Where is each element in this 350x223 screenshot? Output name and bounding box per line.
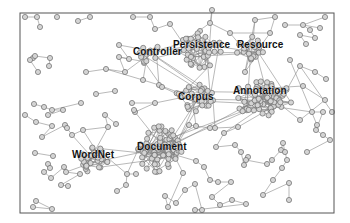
graph-node — [49, 107, 54, 112]
graph-node — [171, 133, 176, 138]
graph-node — [209, 194, 214, 199]
graph-edge — [195, 184, 202, 210]
graph-node — [323, 76, 328, 81]
graph-node — [236, 95, 241, 100]
graph-node — [49, 206, 54, 211]
graph-node — [309, 109, 314, 114]
graph-node — [312, 35, 317, 40]
graph-node — [96, 165, 101, 170]
graph-node — [314, 122, 319, 127]
graph-node — [93, 91, 98, 96]
graph-node — [280, 140, 285, 145]
graph-node — [242, 99, 247, 104]
graph-node — [32, 53, 37, 58]
graph-node — [122, 69, 127, 74]
graph-node — [48, 175, 53, 180]
graph-node — [327, 137, 332, 142]
graph-edge — [307, 140, 330, 152]
graph-node — [49, 123, 54, 128]
graph-node — [197, 65, 202, 70]
graph-node — [116, 54, 121, 59]
graph-edge — [210, 23, 230, 33]
graph-node — [50, 153, 55, 158]
graph-node — [35, 69, 40, 74]
graph-edge — [61, 174, 80, 185]
graph-node — [272, 14, 277, 19]
graph-node — [193, 109, 198, 114]
label-wordnet: WordNet — [72, 150, 114, 160]
graph-node — [133, 171, 138, 176]
graph-node — [130, 14, 135, 19]
graph-node — [303, 41, 308, 46]
graph-node — [162, 193, 167, 198]
graph-node — [282, 22, 287, 27]
graph-node — [41, 169, 46, 174]
graph-node — [159, 84, 164, 89]
graph-node — [146, 130, 151, 135]
graph-node — [113, 121, 118, 126]
label-corpus: Corpus — [178, 92, 214, 102]
graph-node — [185, 104, 190, 109]
graph-edge — [215, 127, 238, 128]
graph-node — [304, 149, 309, 154]
graph-node — [167, 21, 172, 26]
graph-edge — [135, 103, 155, 112]
graph-node — [320, 132, 325, 137]
graph-node — [206, 50, 211, 55]
graph-node — [182, 187, 187, 192]
graph-edge — [212, 182, 231, 197]
graph-node — [188, 61, 193, 66]
graph-node — [33, 119, 38, 124]
graph-node — [165, 204, 170, 209]
graph-edge — [303, 17, 325, 25]
graph-node — [229, 197, 234, 202]
graph-node — [192, 207, 197, 212]
graph-node — [54, 14, 59, 19]
graph-node — [278, 100, 283, 105]
graph-node — [158, 135, 163, 140]
network-graph — [0, 0, 350, 223]
label-persistence: Persistence — [173, 40, 230, 50]
graph-node — [212, 125, 217, 130]
graph-node — [37, 24, 42, 29]
graph-node — [165, 162, 170, 167]
graph-node — [209, 7, 214, 12]
graph-node — [266, 113, 271, 118]
graph-node — [60, 107, 65, 112]
graph-node — [129, 100, 134, 105]
graph-node — [80, 127, 85, 132]
graph-node — [322, 97, 327, 102]
graph-node — [30, 204, 35, 209]
graph-node — [63, 169, 68, 174]
graph-edge — [303, 86, 325, 100]
graph-node — [163, 128, 168, 133]
graph-node — [249, 56, 254, 61]
label-document: Document — [137, 142, 187, 152]
graph-node — [112, 88, 117, 93]
graph-node — [103, 66, 108, 71]
graph-node — [77, 171, 82, 176]
graph-node — [64, 125, 69, 130]
graph-node — [180, 170, 185, 175]
graph-node — [297, 32, 302, 37]
graph-node — [227, 30, 232, 35]
graph-node — [192, 181, 197, 186]
graph-node — [256, 96, 261, 101]
graph-node — [300, 83, 305, 88]
graph-node — [241, 162, 246, 167]
graph-node — [297, 63, 302, 68]
graph-node — [83, 69, 88, 74]
graph-node — [173, 156, 178, 161]
graph-node — [207, 20, 212, 25]
graph-node — [65, 183, 70, 188]
graph-node — [144, 59, 149, 64]
graph-node — [246, 107, 251, 112]
graph-node — [22, 112, 27, 117]
graph-node — [102, 112, 107, 117]
graph-node — [243, 157, 248, 162]
graph-node — [46, 63, 51, 68]
graph-node — [41, 104, 46, 109]
graph-node — [33, 198, 38, 203]
graph-node — [152, 162, 157, 167]
graph-node — [270, 177, 275, 182]
